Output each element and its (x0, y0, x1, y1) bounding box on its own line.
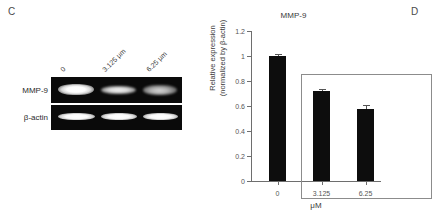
gel-band-bactin-lane1 (101, 113, 137, 120)
plot-area: 00.20.40.60.811.2 03.1256.25 (251, 31, 381, 182)
bar-0 (269, 56, 286, 181)
gel-band-bactin-lane2 (143, 113, 178, 120)
x-axis-title: μM (251, 201, 381, 210)
y-tick-label: 1 (241, 53, 245, 60)
panel-c-gel-blot: C 0 3.125 μm 6.25 μm MMP-9 β-actin (0, 0, 200, 223)
y-tick-mark (247, 81, 251, 82)
inset-highlight-box (301, 74, 432, 199)
gel-lane-header-625: 6.25 μm (145, 50, 168, 73)
x-tick-mark-0 (278, 181, 279, 185)
gel-band-mmp9-lane2 (143, 85, 177, 95)
y-tick-label: 0 (241, 178, 245, 185)
y-tick-mark (247, 31, 251, 32)
panel-d-bar-chart: D MMP-9 Relative expression (normalized … (200, 0, 387, 223)
y-tick-mark (247, 106, 251, 107)
gel-band-bactin-lane0 (58, 113, 95, 120)
y-axis-title-line1: Relative expression (208, 25, 217, 90)
gel-band-mmp9-lane1 (101, 86, 136, 94)
y-tick-label: 0.4 (235, 128, 245, 135)
y-tick-label: 1.2 (235, 28, 245, 35)
gel-row-label-mmp9: MMP-9 (4, 86, 48, 95)
panel-c-letter: C (8, 6, 15, 17)
gel-row-label-bactin: β-actin (4, 113, 48, 122)
y-tick-mark (247, 131, 251, 132)
gel-lane-header-3125: 3.125 μm (101, 47, 127, 73)
gel-strip-bactin (51, 105, 182, 130)
y-tick-mark (247, 156, 251, 157)
gel-strip-mmp9 (51, 77, 182, 103)
chart-title: MMP-9 (200, 11, 387, 20)
y-tick-label: 0.8 (235, 78, 245, 85)
gel-lane-header-0: 0 (59, 65, 67, 73)
gel-band-mmp9-lane0 (58, 84, 94, 95)
y-tick-label: 0.2 (235, 153, 245, 160)
y-axis-line (251, 31, 252, 182)
y-tick-mark (247, 56, 251, 57)
y-tick-mark (247, 181, 251, 182)
x-tick-label-0: 0 (276, 190, 280, 197)
y-axis-title-line2: (normalized by β-actin) (218, 0, 228, 118)
y-tick-label: 0.6 (235, 103, 245, 110)
panel-d-letter: D (411, 6, 418, 17)
y-axis-title: Relative expression (normalized by β-act… (208, 0, 228, 118)
error-bar-cap-0 (275, 54, 282, 55)
